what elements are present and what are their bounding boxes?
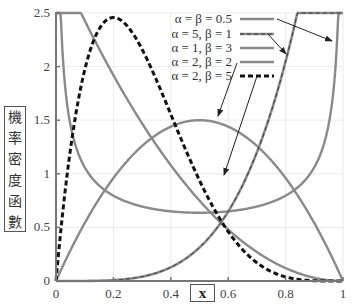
x-tick-label: 0.8 [277,286,293,301]
x-tick-label: 0.2 [105,286,121,301]
x-tick-label: 0.6 [220,286,237,301]
beta-distribution-chart: 00.20.40.60.8100.511.522.5 α = β = 0.5α … [0,0,352,304]
legend: α = β = 0.5α = 5, β = 1α = 1, β = 3α = 2… [171,11,274,83]
legend-label: α = 2, β = 5 [171,68,232,83]
y-tick-label: 1.5 [34,112,50,127]
y-axis-title-char: 密 [5,149,25,170]
legend-label: α = 2, β = 2 [171,54,232,69]
y-tick-label: 2 [44,59,51,74]
y-tick-label: 1 [44,166,51,181]
legend-label: α = 1, β = 3 [171,40,232,55]
x-tick-label: 0 [53,286,60,301]
y-tick-label: 0 [44,273,51,288]
arrow-annotation [224,76,257,175]
x-axis-title: x [190,284,215,302]
y-axis-title: 機率密度函數 [4,106,26,232]
y-axis-title-char: 機 [5,107,25,128]
legend-label: α = 5, β = 1 [171,26,232,41]
legend-label: α = β = 0.5 [175,11,232,26]
x-tick-label: 0.4 [163,286,180,301]
y-axis-title-char: 函 [5,191,25,212]
y-tick-label: 0.5 [34,219,50,234]
x-tick-label: 1 [340,286,347,301]
arrow-annotation [268,34,286,54]
y-tick-label: 2.5 [34,5,50,20]
y-axis-title-char: 率 [5,128,25,149]
y-axis-title-char: 度 [5,170,25,191]
y-axis-title-char: 數 [5,212,25,233]
